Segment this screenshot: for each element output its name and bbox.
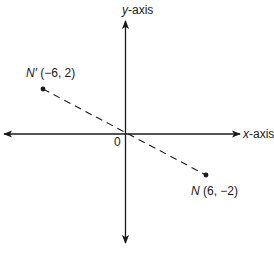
point-n-prime-label: N′ (−6, 2) <box>26 66 75 80</box>
y-axis-label-rest: -axis <box>128 3 153 17</box>
point-n-prime-dot <box>41 87 46 92</box>
x-axis-label: x-axis <box>242 127 274 141</box>
point-n-prime-coords-text: (−6, 2) <box>40 66 75 80</box>
y-axis-label: y-axis <box>121 3 153 17</box>
point-n-prime-name: N′ <box>26 66 38 80</box>
point-n-name: N <box>191 184 200 198</box>
point-n-label: N (6, −2) <box>191 184 238 198</box>
coordinate-plane-diagram: y-axis x-axis 0 N′ (−6, 2) N (6, −2) <box>0 0 274 256</box>
dashed-reflection-line <box>43 89 206 175</box>
point-n-dot <box>204 173 209 178</box>
origin-label: 0 <box>114 135 121 149</box>
x-axis-label-rest: -axis <box>249 127 274 141</box>
point-n-coords-text: (6, −2) <box>203 184 238 198</box>
